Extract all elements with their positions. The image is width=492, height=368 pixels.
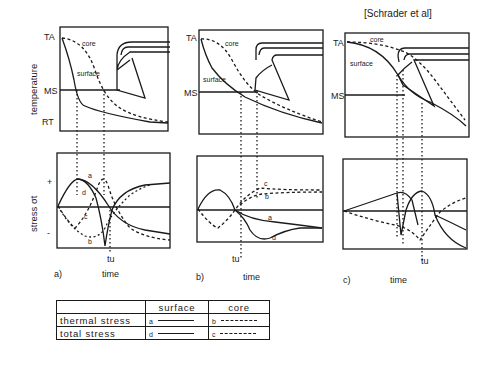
tick-ta-c: TA [333, 38, 344, 48]
legend-row-thermal: thermal stress a b [57, 314, 270, 327]
stress-axis-label: stress σt [28, 195, 39, 232]
tu-label-b: tu [232, 254, 240, 264]
legend-header-surface: surface [146, 301, 209, 314]
curve-label-d: d [82, 189, 86, 196]
solid-line-sample [158, 333, 194, 334]
legend-tag: a [149, 318, 154, 325]
core-label-c: core [370, 36, 384, 43]
legend-core-cell: b [209, 314, 270, 327]
panel-c-temperature-plot [345, 33, 469, 137]
core-label-b: core [225, 40, 239, 47]
temperature-axis-label: temperature [28, 64, 39, 115]
panel-label-b: b) [196, 272, 204, 282]
dashed-line-sample [220, 333, 256, 334]
surface-label-b: surface [203, 76, 226, 83]
tick-minus: - [47, 228, 50, 238]
legend-table: surface core thermal stress a b total st… [56, 300, 270, 340]
panel-label-c: c) [343, 275, 351, 285]
curve-label-c: c [84, 213, 88, 220]
tick-ta-b: TA [186, 33, 197, 43]
tick-rt-a: RT [42, 117, 54, 127]
core-label-a: core [82, 40, 96, 47]
legend-row-total: total stress d c [57, 327, 270, 340]
legend-row-label: total stress [57, 327, 146, 340]
tu-label-c: tu [421, 256, 429, 266]
curve-label-a-b: a [268, 214, 272, 221]
time-label-a: time [102, 269, 119, 279]
time-label-c: time [390, 275, 407, 285]
legend-core-cell: c [209, 327, 270, 340]
legend-header-core: core [209, 301, 270, 314]
curve-label-d-b: d [272, 234, 276, 241]
legend-header-row: surface core [57, 301, 270, 314]
tu-label-a: tu [107, 254, 115, 264]
curve-label-c-b: c [264, 180, 268, 187]
panel-label-a: a) [54, 269, 62, 279]
tick-ms-b: MS [184, 88, 198, 98]
tick-ta-a: TA [44, 32, 55, 42]
tick-plus: + [47, 177, 52, 187]
attribution-text: [Schrader et al] [364, 8, 432, 19]
legend-tag: c [212, 331, 216, 338]
surface-label-a: surface [77, 70, 100, 77]
panel-a-stress-plot [57, 153, 170, 248]
curve-label-b-b: b [265, 193, 269, 200]
legend-tag: d [149, 331, 154, 338]
legend-tag: b [212, 318, 217, 325]
solid-line-sample [158, 320, 194, 321]
legend-surface-cell: d [146, 327, 209, 340]
tick-ms-c: MS [331, 91, 345, 101]
surface-label-c: surface [350, 60, 373, 67]
curve-label-b: b [88, 238, 92, 245]
legend-row-label: thermal stress [57, 314, 146, 327]
legend-surface-cell: a [146, 314, 209, 327]
time-label-b: time [243, 272, 260, 282]
legend-header-empty [57, 301, 146, 314]
tick-ms-a: MS [44, 86, 58, 96]
dashed-line-sample [221, 320, 257, 321]
panel-b-stress-plot [197, 156, 323, 242]
curve-label-a: a [88, 172, 92, 179]
panel-c-stress-plot [343, 159, 467, 249]
